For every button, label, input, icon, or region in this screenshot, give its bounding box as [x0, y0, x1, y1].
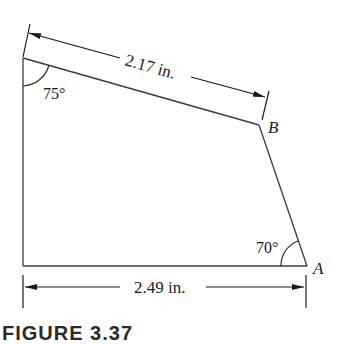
point-label-a: A [312, 259, 324, 278]
angle-arc-top-left [23, 65, 49, 86]
top-dimension-label: 2.17 in. [123, 51, 178, 83]
top-dimension-tick-left [23, 24, 30, 57]
angle-label-bottom-right: 70° [256, 239, 278, 256]
angle-label-top-left: 75° [43, 85, 65, 102]
top-dimension-arrow-left [29, 33, 120, 58]
quadrilateral-shape [23, 58, 307, 266]
top-dimension-tick-right [262, 91, 269, 120]
point-label-b: B [268, 118, 279, 137]
figure-caption: FIGURE 3.37 [2, 322, 133, 344]
bottom-dimension-label: 2.49 in. [134, 278, 185, 297]
top-dimension-arrow-right [191, 77, 265, 97]
angle-arc-bottom-right [281, 241, 298, 266]
